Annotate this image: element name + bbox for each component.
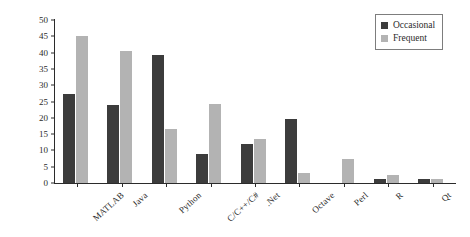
x-axis-tick-label: .Net	[263, 190, 282, 208]
y-axis-tick-mark	[51, 134, 55, 135]
y-axis-tick-label: 25	[39, 97, 51, 106]
y-axis-tick-mark	[51, 52, 55, 53]
x-axis-tick-mark	[122, 183, 123, 187]
bar-qt-occasional	[418, 179, 430, 183]
bar-group	[329, 20, 354, 183]
x-axis-tick-mark	[433, 183, 434, 187]
y-axis-tick: 40	[39, 48, 55, 57]
x-axis-tick-mark	[255, 183, 256, 187]
legend-item: Frequent	[381, 32, 435, 45]
y-axis-tick: 15	[39, 130, 55, 139]
y-axis-tick-label: 30	[39, 81, 51, 90]
y-axis-tick-label: 45	[39, 32, 51, 41]
bar-group	[196, 20, 221, 183]
bar-group	[241, 20, 266, 183]
x-axis-tick-mark	[77, 183, 78, 187]
y-axis-tick-mark	[51, 68, 55, 69]
bar-java-occasional	[107, 105, 119, 183]
legend-swatch-frequent	[381, 35, 388, 42]
x-axis-tick-mark	[211, 183, 212, 187]
legend-label: Occasional	[393, 21, 435, 31]
bar-group	[107, 20, 132, 183]
bar-c-c-c-frequent	[209, 104, 221, 183]
y-axis-tick-mark	[51, 183, 55, 184]
bar-perl-frequent	[342, 159, 354, 183]
bar-python-frequent	[165, 129, 177, 183]
bar-octave-frequent	[298, 173, 310, 183]
x-axis-tick-mark	[344, 183, 345, 187]
bar-chart: Percentage 05101520253035404550 Occasion…	[0, 0, 470, 237]
x-axis-tick-label: Java	[130, 190, 149, 209]
bar-group	[285, 20, 310, 183]
bar-r-occasional	[374, 179, 386, 183]
x-axis-tick-label: R	[394, 190, 405, 202]
bar-group	[152, 20, 177, 183]
y-axis-tick-mark	[51, 166, 55, 167]
y-axis-tick-mark	[51, 150, 55, 151]
y-axis-tick-mark	[51, 36, 55, 37]
x-axis-tick-label: Perl	[352, 190, 370, 208]
y-axis-tick-label: 50	[39, 16, 51, 25]
y-axis-tick-label: 10	[39, 146, 51, 155]
y-axis-tick-label: 5	[44, 162, 52, 171]
y-axis-tick: 45	[39, 32, 55, 41]
bar-matlab-frequent	[76, 36, 88, 183]
bar-octave-occasional	[285, 119, 297, 183]
y-axis-tick-label: 40	[39, 48, 51, 57]
bar-python-occasional	[152, 55, 164, 183]
y-axis-tick: 25	[39, 97, 55, 106]
y-axis-tick: 35	[39, 64, 55, 73]
y-axis-tick: 30	[39, 81, 55, 90]
y-axis-tick-mark	[51, 117, 55, 118]
x-axis-tick-label: MATLAB	[91, 190, 126, 223]
y-axis-tick-label: 15	[39, 130, 51, 139]
y-axis-tick-mark	[51, 101, 55, 102]
y-axis-tick: 0	[44, 179, 56, 188]
x-axis-tick-mark	[299, 183, 300, 187]
x-axis-tick-mark	[388, 183, 389, 187]
legend-label: Frequent	[393, 34, 427, 44]
x-axis-tick-label: Qt	[439, 190, 453, 204]
y-axis-tick-label: 0	[44, 179, 52, 188]
legend-item: Occasional	[381, 19, 435, 32]
legend-swatch-occasional	[381, 22, 388, 29]
x-axis-tick-label: Python	[177, 190, 204, 215]
bar-java-frequent	[120, 51, 132, 183]
x-axis-tick-label: Octave	[310, 190, 337, 215]
chart-legend: OccasionalFrequent	[375, 14, 443, 50]
y-axis-tick: 20	[39, 113, 55, 122]
y-axis-tick: 50	[39, 16, 55, 25]
bar-c-c-c-occasional	[196, 154, 208, 183]
y-axis-tick: 10	[39, 146, 55, 155]
y-axis-tick: 5	[44, 162, 56, 171]
bar-group	[63, 20, 88, 183]
x-axis-tick-label: C/C++/C#	[225, 190, 261, 224]
bar-net-occasional	[241, 144, 253, 183]
y-axis-tick-mark	[51, 20, 55, 21]
y-axis-tick-label: 20	[39, 113, 51, 122]
bar-net-frequent	[254, 139, 266, 183]
y-axis-tick-mark	[51, 85, 55, 86]
y-axis-tick-label: 35	[39, 64, 51, 73]
x-axis-tick-mark	[166, 183, 167, 187]
bar-matlab-occasional	[63, 94, 75, 183]
bar-r-frequent	[387, 175, 399, 183]
